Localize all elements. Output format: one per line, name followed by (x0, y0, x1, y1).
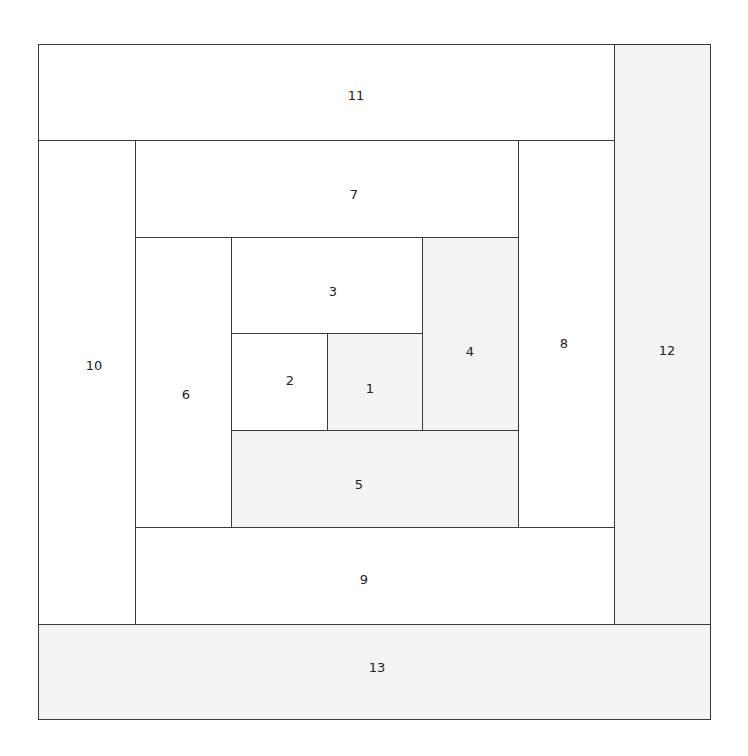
block-label-4: 4 (466, 344, 474, 359)
block-label-3: 3 (329, 284, 337, 299)
block-10 (38, 140, 136, 625)
block-label-9: 9 (360, 572, 368, 587)
block-label-5: 5 (355, 477, 363, 492)
block-label-1: 1 (366, 381, 374, 396)
block-label-11: 11 (348, 88, 365, 103)
block-8 (518, 140, 615, 528)
block-11 (38, 44, 615, 141)
block-label-6: 6 (182, 387, 190, 402)
block-1 (327, 333, 423, 431)
block-3 (231, 237, 423, 334)
block-12 (614, 44, 711, 625)
block-7 (135, 140, 519, 238)
block-label-8: 8 (560, 336, 568, 351)
block-label-13: 13 (369, 660, 386, 675)
block-label-7: 7 (350, 187, 358, 202)
block-2 (231, 333, 328, 431)
block-6 (135, 237, 232, 528)
block-label-10: 10 (86, 358, 103, 373)
block-9 (135, 527, 615, 625)
block-label-12: 12 (659, 343, 676, 358)
block-label-2: 2 (286, 373, 294, 388)
block-4 (422, 237, 519, 431)
block-5 (231, 430, 519, 528)
